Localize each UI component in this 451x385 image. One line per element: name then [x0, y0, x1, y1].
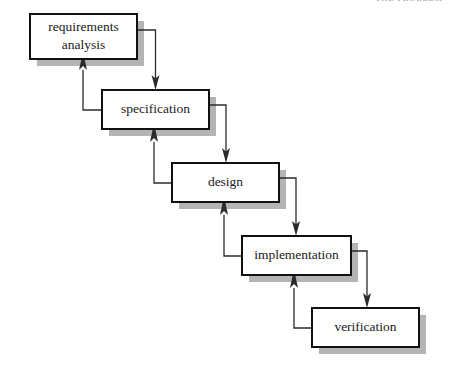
- feedback-edge-path-3: [224, 215, 242, 256]
- waterfall-diagram: requirements analysis specification desi…: [0, 0, 451, 385]
- stage-box-specification[interactable]: specification: [102, 90, 209, 129]
- stage-label-verification: verification: [334, 319, 396, 334]
- stage-box-design[interactable]: design: [172, 163, 279, 202]
- stage-box-implementation[interactable]: implementation: [242, 236, 351, 275]
- stage-box-verification[interactable]: verification: [312, 308, 419, 347]
- stage-label-requirements-analysis-line1: requirements: [48, 19, 118, 34]
- stage-box-requirements-analysis[interactable]: requirements analysis: [30, 14, 137, 59]
- feedback-edge-path-2: [154, 142, 172, 183]
- stage-label-specification: specification: [121, 101, 190, 116]
- feedback-edge-path-1: [83, 70, 102, 110]
- waterfall-diagram-canvas: THE PROBLEM: [0, 0, 451, 385]
- stage-label-requirements-analysis-line2: analysis: [62, 37, 106, 52]
- stage-label-implementation: implementation: [254, 247, 339, 262]
- stage-label-design: design: [208, 174, 243, 189]
- feedback-edge-path-4: [294, 288, 312, 328]
